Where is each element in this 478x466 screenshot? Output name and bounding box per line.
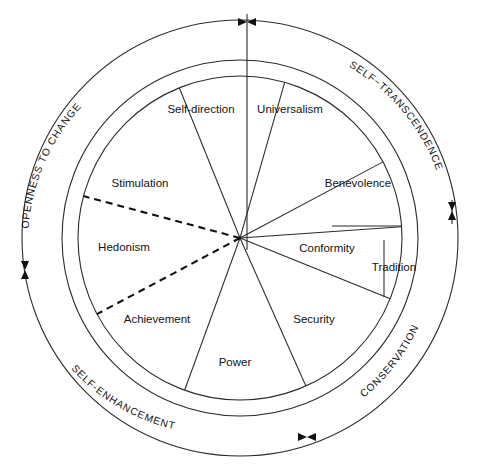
value-label-universalism: Universalism (257, 103, 323, 115)
ring-arrow-marker-top (238, 14, 256, 250)
ring-arrow-marker-bottom (298, 433, 316, 441)
value-label-security: Security (293, 313, 335, 325)
ring-label-openness-to-change: OPENNESS TO CHANGE (19, 101, 83, 230)
spoke-universalism-benevolence (240, 162, 383, 238)
circumplex-svg-canvas: Self-direction Universalism Benevolence … (0, 0, 478, 466)
spoke-benevolence-conformity (240, 227, 402, 238)
schwartz-value-circumplex-diagram: Self-direction Universalism Benevolence … (0, 0, 478, 466)
value-label-stimulation: Stimulation (112, 177, 169, 189)
ring-arrow-marker-right (448, 200, 456, 224)
dashed-boundary-hedonism-stimulation (84, 196, 241, 238)
value-label-self-direction: Self-direction (167, 103, 234, 115)
value-label-conformity: Conformity (299, 242, 355, 254)
ring-label-self-transcendence: SELF−TRANSCENDENCE (348, 59, 445, 172)
value-label-achievement: Achievement (124, 313, 191, 325)
ring-label-self-transcendence-textpath: SELF−TRANSCENDENCE (348, 59, 445, 172)
ring-label-openness-to-change-textpath: OPENNESS TO CHANGE (19, 101, 83, 230)
value-label-power: Power (219, 356, 252, 368)
ring-arrow-marker-left (21, 261, 29, 279)
value-label-hedonism: Hedonism (98, 241, 150, 253)
value-label-benevolence: Benevolence (325, 177, 392, 189)
value-label-tradition: Tradition (372, 261, 416, 273)
